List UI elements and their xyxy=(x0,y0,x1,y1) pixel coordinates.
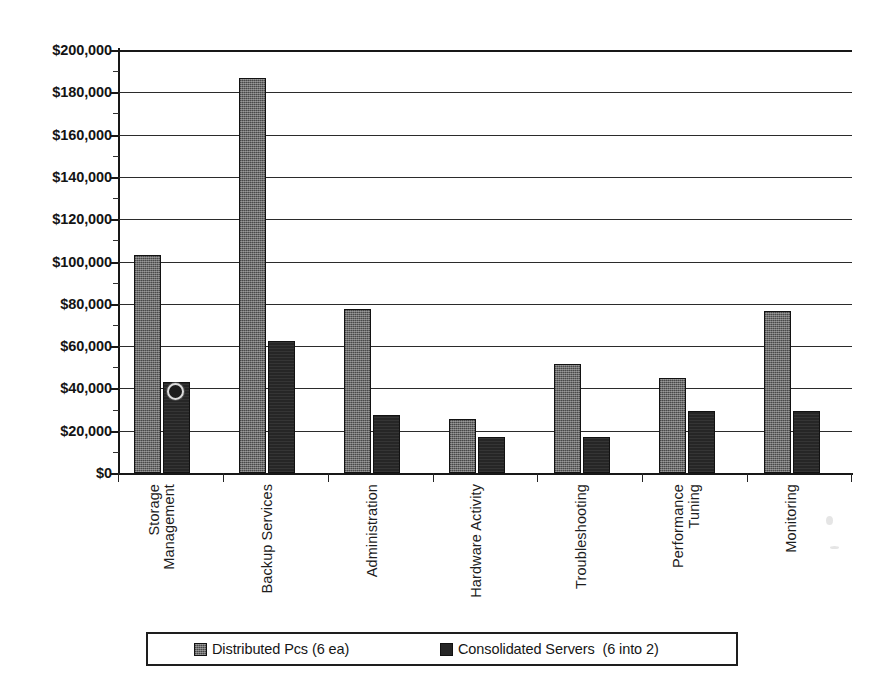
bar-series-b-2 xyxy=(373,415,400,473)
y-axis-tick-label: $100,000 xyxy=(8,254,112,270)
x-axis-label: Troubleshooting xyxy=(573,484,591,612)
x-axis-tick xyxy=(747,473,748,482)
bar-group xyxy=(344,50,400,473)
legend-swatch-series-a xyxy=(194,643,207,656)
legend-entry: Consolidated Servers (6 into 2) xyxy=(440,641,659,657)
bar-series-b-4 xyxy=(583,437,610,473)
bar-series-a-5 xyxy=(659,378,686,473)
bar-series-b-6 xyxy=(793,411,820,473)
x-axis-ticks xyxy=(118,473,852,483)
bar-series-a-1 xyxy=(239,78,266,474)
x-axis-tick xyxy=(118,473,119,482)
scan-artifact xyxy=(826,516,833,525)
x-axis-tick xyxy=(433,473,434,482)
x-axis-tick xyxy=(642,473,643,482)
bar-series-a-0 xyxy=(134,255,161,473)
x-axis-label-line: Monitoring xyxy=(784,484,799,553)
x-axis-label: Monitoring xyxy=(783,484,801,612)
bar-groups xyxy=(118,50,852,473)
y-axis-tick-label: $140,000 xyxy=(8,169,112,185)
legend-swatch-series-b xyxy=(440,643,453,656)
x-axis-label-line: Hardware Activity xyxy=(469,484,484,598)
bar-group xyxy=(134,50,190,473)
y-axis-tick-label: $60,000 xyxy=(8,338,112,354)
x-axis-label: PerformanceTuning xyxy=(669,484,705,612)
bar-group xyxy=(764,50,820,473)
y-axis-tick-label: $200,000 xyxy=(8,42,112,58)
y-axis-labels: $200,000$180,000$160,000$140,000$120,000… xyxy=(8,50,112,473)
chart-legend: Distributed Pcs (6 ea)Consolidated Serve… xyxy=(146,632,738,666)
y-axis-tick-label: $180,000 xyxy=(8,84,112,100)
x-axis-label-line: Troubleshooting xyxy=(574,484,589,589)
bar-group xyxy=(449,50,505,473)
bar-group xyxy=(554,50,610,473)
y-axis-tick-label: $160,000 xyxy=(8,127,112,143)
bar-series-a-6 xyxy=(764,311,791,473)
bar-chart: $200,000$180,000$160,000$140,000$120,000… xyxy=(0,0,879,697)
x-axis-label-line: Management xyxy=(162,484,177,570)
x-axis-label-line: Tuning xyxy=(687,484,702,528)
legend-entry: Distributed Pcs (6 ea) xyxy=(194,641,349,657)
x-axis-tick xyxy=(851,473,852,482)
legend-label: Distributed Pcs (6 ea) xyxy=(212,641,349,657)
x-axis-labels: StorageManagementBackup ServicesAdminist… xyxy=(118,484,852,614)
x-axis-tick xyxy=(223,473,224,482)
x-axis-label-line: Performance xyxy=(671,484,686,568)
bar-series-a-4 xyxy=(554,364,581,473)
x-axis-tick xyxy=(328,473,329,482)
y-axis-tick-label: $120,000 xyxy=(8,211,112,227)
bar-group xyxy=(239,50,295,473)
legend-label: Consolidated Servers (6 into 2) xyxy=(458,641,659,657)
bar-series-b-5 xyxy=(688,411,715,473)
x-axis-label: Administration xyxy=(363,484,381,612)
bar-series-b-1 xyxy=(268,341,295,473)
bar-series-a-2 xyxy=(344,309,371,473)
plot-area xyxy=(118,50,852,473)
scan-artifact xyxy=(830,546,839,549)
bar-group xyxy=(659,50,715,473)
x-axis-label-line: Administration xyxy=(365,484,380,577)
y-axis-tick-label: $20,000 xyxy=(8,423,112,439)
x-axis-label: Hardware Activity xyxy=(468,484,486,612)
y-axis-tick-label: $40,000 xyxy=(8,380,112,396)
x-axis-tick xyxy=(537,473,538,482)
y-axis-tick-label: $0 xyxy=(8,465,112,481)
y-axis-tick-label: $80,000 xyxy=(8,296,112,312)
x-axis-label: Backup Services xyxy=(258,484,276,612)
x-axis-label-line: Storage xyxy=(147,484,162,536)
x-axis-label: StorageManagement xyxy=(144,484,180,612)
x-axis-label-line: Backup Services xyxy=(260,484,275,594)
bar-series-b-3 xyxy=(478,437,505,473)
bar-series-a-3 xyxy=(449,419,476,473)
